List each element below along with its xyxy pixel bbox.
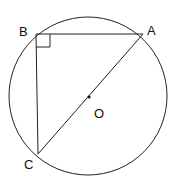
segment-ac-diameter (38, 34, 143, 154)
label-b: B (19, 24, 28, 39)
label-a: A (147, 23, 156, 38)
label-c: C (24, 157, 33, 172)
right-angle-marker (36, 34, 50, 47)
segment-bc (36, 34, 38, 154)
diagram-canvas: B A C O (0, 0, 175, 178)
label-o: O (94, 106, 104, 121)
center-point (87, 95, 90, 98)
